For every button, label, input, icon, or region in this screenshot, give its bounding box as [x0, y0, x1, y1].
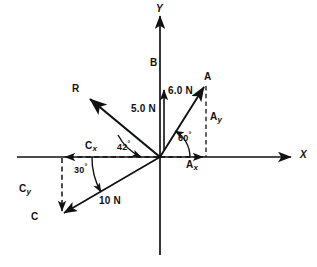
- angle-label-60: 60°: [178, 131, 191, 143]
- component-label-ax-sub: x: [193, 163, 198, 172]
- vector-label-a: A: [204, 72, 211, 82]
- angle-label-42-degree: °: [127, 140, 130, 147]
- magnitude-label-b: 5.0 N: [131, 104, 156, 114]
- angle-label-30-value: 30: [74, 165, 84, 175]
- component-label-cy: Cy: [19, 184, 31, 194]
- component-label-cx: Cx: [85, 141, 97, 151]
- component-label-cy-sub: y: [26, 187, 31, 196]
- vector-diagram-canvas: [0, 0, 317, 267]
- angle-label-42-value: 42: [117, 142, 127, 152]
- angle-label-60-degree: °: [188, 131, 191, 138]
- vector-diagram-figure: X Y B A R C 6.0 N 5.0 N 10 N Ax Ay Cx Cy…: [0, 0, 317, 267]
- vector-label-c: C: [31, 212, 38, 222]
- vector-label-r: R: [72, 84, 79, 94]
- vector-a-arrow: [160, 87, 204, 157]
- component-label-ay-sub: y: [217, 115, 222, 124]
- axis-label-x: X: [300, 150, 307, 160]
- angle-arc-30: [92, 157, 101, 192]
- vector-label-b: B: [150, 58, 157, 68]
- magnitude-label-a: 6.0 N: [168, 86, 193, 96]
- magnitude-label-c: 10 N: [99, 196, 121, 206]
- component-label-ay: Ay: [210, 112, 222, 122]
- component-label-cx-sub: x: [92, 144, 97, 153]
- angle-label-60-value: 60: [178, 133, 188, 143]
- angle-label-30: 30°: [74, 163, 87, 175]
- component-label-ax: Ax: [186, 160, 198, 170]
- angle-label-42: 42°: [117, 140, 130, 152]
- axis-label-y: Y: [156, 4, 163, 14]
- angle-label-30-degree: °: [84, 163, 87, 170]
